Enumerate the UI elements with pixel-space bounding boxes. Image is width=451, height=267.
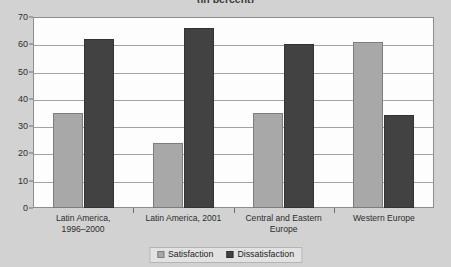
x-axis-category-label-line: Western Europe	[334, 213, 434, 224]
x-axis-category-label-line: 1996–2000	[33, 224, 133, 235]
y-axis-tick	[29, 17, 33, 18]
chart-legend: SatisfactionDissatisfaction	[149, 247, 302, 263]
y-axis-tick	[29, 180, 33, 181]
legend-label: Satisfaction	[168, 249, 213, 260]
y-axis-tick	[29, 44, 33, 45]
legend-label: Dissatisfaction	[237, 249, 294, 260]
x-axis-category-label: Latin America,1996–2000	[33, 213, 133, 235]
bar-satisfaction-4	[353, 42, 383, 208]
bar-satisfaction-3	[253, 113, 283, 209]
y-axis-tick	[29, 71, 33, 72]
y-axis-tick-label: 20	[4, 148, 28, 158]
x-axis-category-label-line: Europe	[234, 224, 334, 235]
y-axis-tick-label: 60	[4, 39, 28, 49]
y-axis-tick	[29, 126, 33, 127]
x-axis-category-label-line: Central and Eastern	[234, 213, 334, 224]
y-axis-tick-label: 0	[4, 203, 28, 213]
y-axis-tick	[29, 208, 33, 209]
legend-swatch-icon	[157, 251, 164, 258]
bar-dissatisfaction-4	[384, 115, 414, 208]
x-axis-category-label-line: Latin America, 2001	[133, 213, 233, 224]
y-axis-tick-label: 30	[4, 121, 28, 131]
x-axis-category-label: Central and EasternEurope	[234, 213, 334, 235]
y-axis-tick	[29, 98, 33, 99]
y-axis-tick-label: 40	[4, 94, 28, 104]
bar-chart: (in percent) 010203040506070 Latin Ameri…	[0, 0, 451, 267]
bar-satisfaction-1	[53, 113, 83, 209]
bar-dissatisfaction-2	[184, 28, 214, 208]
x-axis-category-label: Latin America, 2001	[133, 213, 233, 224]
bar-dissatisfaction-3	[284, 44, 314, 208]
y-axis-tick-label: 10	[4, 176, 28, 186]
y-axis-tick	[29, 153, 33, 154]
x-axis-category-label-line: Latin America,	[33, 213, 133, 224]
y-axis-tick-label: 50	[4, 67, 28, 77]
chart-title: (in percent)	[0, 0, 451, 3]
y-axis-tick-label: 70	[4, 12, 28, 22]
bar-satisfaction-2	[153, 143, 183, 208]
legend-item-dissatisfaction[interactable]: Dissatisfaction	[226, 249, 294, 260]
legend-item-satisfaction[interactable]: Satisfaction	[157, 249, 213, 260]
bar-dissatisfaction-1	[84, 39, 114, 208]
legend-swatch-icon	[226, 251, 233, 258]
x-axis-category-label: Western Europe	[334, 213, 434, 224]
